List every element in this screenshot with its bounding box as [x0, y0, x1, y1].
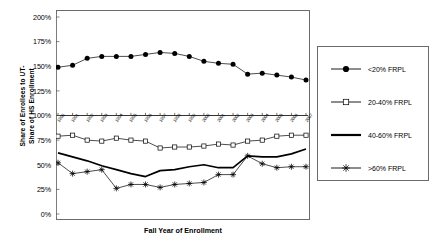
y-axis-tick-label: 0%: [18, 210, 51, 219]
series-line: [58, 156, 306, 189]
legend-item: <20% FRPL: [318, 59, 430, 79]
legend-marker-icon: [328, 94, 364, 110]
y-axis-tick-label: 75%: [18, 136, 51, 145]
y-axis-tick-label: 50%: [18, 161, 51, 170]
data-series: [56, 153, 309, 192]
series-line: [58, 149, 306, 177]
legend-label: <20% FRPL: [368, 66, 406, 73]
y-axis-tick-label: 150%: [18, 62, 51, 71]
y-axis-tick-label: 25%: [18, 185, 51, 194]
legend-item: >60% FRPL: [318, 158, 430, 178]
data-series: [56, 50, 309, 83]
legend-item: 20-40% FRPL: [318, 92, 430, 112]
legend-label: 40-60% FRPL: [368, 132, 412, 139]
legend-label: 20-40% FRPL: [368, 99, 412, 106]
data-series: [56, 133, 308, 150]
legend-marker-icon: [328, 61, 364, 77]
series-line: [58, 52, 306, 80]
chart-legend: <20% FRPL20-40% FRPL40-60% FRPL>60% FRPL: [317, 46, 429, 181]
legend-item: 40-60% FRPL: [318, 125, 430, 145]
data-series: [58, 149, 306, 177]
chart-container: Share of Enrollees to UT- Share of HS En…: [0, 0, 436, 246]
legend-marker-icon: [328, 160, 364, 176]
series-line: [58, 135, 306, 148]
legend-marker-icon: [328, 127, 364, 143]
y-axis-tick-label: 125%: [18, 87, 51, 96]
y-axis-tick-label: 100%: [18, 111, 51, 120]
y-axis-tick-label: 200%: [18, 13, 51, 22]
y-axis-tick-label: 175%: [18, 37, 51, 46]
x-axis-title: Fall Year of Enrollment: [56, 226, 310, 235]
legend-label: >60% FRPL: [368, 165, 406, 172]
